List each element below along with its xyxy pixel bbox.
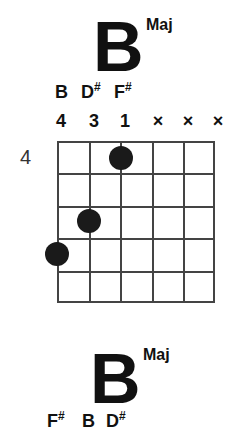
fret-line xyxy=(59,271,213,273)
start-fret-number: 4 xyxy=(20,146,31,169)
mute-string-1: × xyxy=(208,111,228,132)
finger-dot xyxy=(77,209,101,233)
fret-line xyxy=(59,173,213,175)
next-chord-quality: Maj xyxy=(143,346,170,364)
mute-string-3: × xyxy=(148,111,168,132)
finger-string-5: 3 xyxy=(84,111,104,132)
next-chord-root: B xyxy=(90,344,139,414)
string-line xyxy=(152,143,154,301)
mute-string-2: × xyxy=(178,111,198,132)
next-note-label: D# xyxy=(106,411,126,427)
finger-dot xyxy=(45,242,69,266)
fret-line xyxy=(59,206,213,208)
chord-root: B xyxy=(93,12,142,82)
string-line xyxy=(183,143,185,301)
note-label: B xyxy=(55,82,68,103)
note-label: F# xyxy=(114,82,132,103)
next-note-label: F# xyxy=(47,411,65,427)
note-label: D# xyxy=(81,82,101,103)
finger-string-6: 4 xyxy=(51,111,71,132)
finger-string-4: 1 xyxy=(115,111,135,132)
next-note-label: B xyxy=(82,411,95,427)
finger-dot xyxy=(109,146,133,170)
fret-line xyxy=(59,238,213,240)
chord-quality: Maj xyxy=(146,16,173,34)
